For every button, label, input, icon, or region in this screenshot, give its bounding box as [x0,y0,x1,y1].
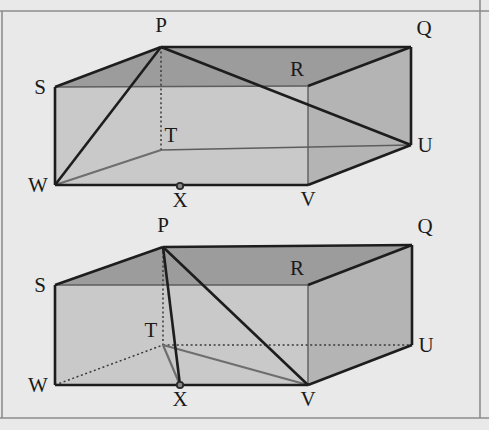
cuboid-bottom-label-T: T [145,318,158,342]
cuboid-top-label-Q: Q [416,16,431,40]
cuboid-top-label-P: P [155,13,167,37]
cuboid-bottom-label-S: S [34,273,46,297]
cuboid-bottom: PQRSTUVWX [28,213,434,411]
diagram-page: PQRSTUVWXPQRSTUVWX [0,0,489,430]
cuboid-top: PQRSTUVWX [28,13,433,212]
cuboid-top-label-W: W [28,173,48,197]
cuboid-top-label-S: S [34,75,46,99]
cuboid-bottom-label-R: R [290,256,304,280]
cuboid-bottom-label-W: W [28,373,48,397]
cuboid-bottom-label-P: P [157,213,169,237]
cuboid-bottom-label-U: U [418,333,433,357]
figures-layer: PQRSTUVWXPQRSTUVWX [28,13,434,411]
cuboid-bottom-label-X: X [172,387,187,411]
cuboid-top-label-U: U [417,133,432,157]
cuboid-top-edge-S-R [55,86,308,87]
cuboid-top-label-R: R [290,57,304,81]
cuboid-top-label-X: X [172,188,187,212]
cuboid-diagram-canvas: PQRSTUVWXPQRSTUVWX [0,0,489,430]
cuboid-bottom-label-Q: Q [417,214,432,238]
cuboid-bottom-front-face [55,285,308,385]
cuboid-top-label-V: V [300,187,315,211]
cuboid-bottom-label-V: V [300,387,315,411]
cuboid-top-label-T: T [165,123,178,147]
